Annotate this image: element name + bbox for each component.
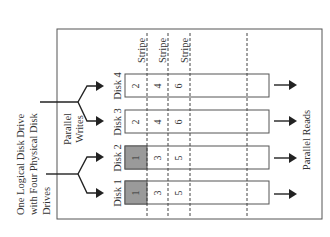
arrow-right-icon [96, 81, 104, 91]
block-number: 1 [130, 191, 141, 196]
block-number: 4 [152, 120, 163, 125]
arrow-right-icon [289, 116, 297, 126]
stripe-label: Stripe [136, 38, 147, 63]
block-number: 1 [130, 156, 141, 161]
raid-diagram: One Logical Disk Drive with Four Physica… [0, 0, 330, 237]
fork-branch [78, 86, 97, 102]
writes-line-1: Parallel [62, 113, 73, 145]
disk-label: Disk 4 [112, 71, 123, 99]
block-number: 2 [130, 84, 141, 89]
arrow-right-icon [289, 189, 297, 199]
title-line-1: One Logical Disk Drive [15, 113, 26, 215]
disk-row-3: Disk 3 2 4 6 [112, 108, 269, 136]
fork-branch [78, 174, 97, 193]
parallel-writes-label: Parallel Writes [62, 113, 85, 145]
block-number: 4 [152, 84, 163, 89]
writes-line-2: Writes [74, 115, 85, 143]
disk-label: Disk 3 [112, 108, 123, 136]
block-number: 2 [130, 120, 141, 125]
arrow-right-icon [289, 80, 297, 90]
read-arrows [274, 80, 297, 199]
block-number: 6 [173, 84, 184, 89]
arrow-right-icon [96, 188, 104, 198]
block-number: 5 [173, 156, 184, 161]
block-number: 6 [173, 120, 184, 125]
disk-label: Disk 2 [112, 144, 123, 172]
block-number: 5 [173, 191, 184, 196]
arrow-right-icon [96, 116, 104, 126]
disk-label: Disk 1 [112, 179, 123, 207]
parallel-reads-label: Parallel Reads [301, 110, 312, 170]
write-fork-lower [46, 152, 104, 198]
logical-drive-title: One Logical Disk Drive with Four Physica… [15, 112, 52, 215]
stripe-label: Stripe [179, 38, 190, 63]
block-number: 3 [152, 156, 163, 161]
block-number: 3 [152, 191, 163, 196]
fork-branch [78, 157, 97, 174]
arrow-right-icon [289, 153, 297, 163]
arrow-right-icon [96, 152, 104, 162]
title-line-2: with Four Physical Disk [28, 112, 39, 215]
title-line-3: Drives [41, 187, 52, 215]
stripe-label: Stripe [157, 38, 168, 63]
